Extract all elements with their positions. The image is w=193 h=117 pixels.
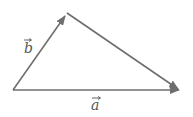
label-b-group: b xyxy=(24,39,33,57)
label-b: b xyxy=(24,40,33,56)
vector-b-arrow xyxy=(13,16,65,90)
vector-diagram: b a xyxy=(0,0,193,117)
vector-triangle-svg: b a xyxy=(0,0,193,117)
label-a: a xyxy=(91,97,99,113)
label-a-group: a xyxy=(91,97,101,114)
triangle-edge xyxy=(67,13,178,89)
